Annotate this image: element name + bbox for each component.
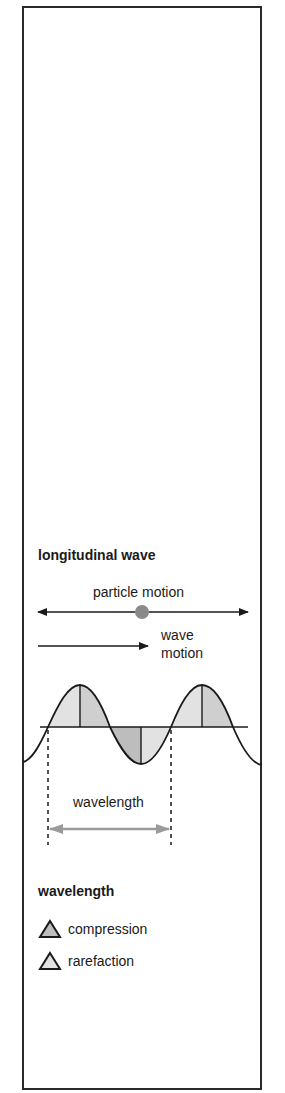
triangle-icon xyxy=(38,951,62,971)
particle-dot-icon xyxy=(135,605,149,619)
legend-title: wavelength xyxy=(38,883,114,899)
legend-label-compression: compression xyxy=(68,921,147,937)
legend-item-compression: compression xyxy=(38,919,147,939)
legend-item-rarefaction: rarefaction xyxy=(38,951,134,971)
triangle-icon xyxy=(38,919,62,939)
legend-label-rarefaction: rarefaction xyxy=(68,953,134,969)
